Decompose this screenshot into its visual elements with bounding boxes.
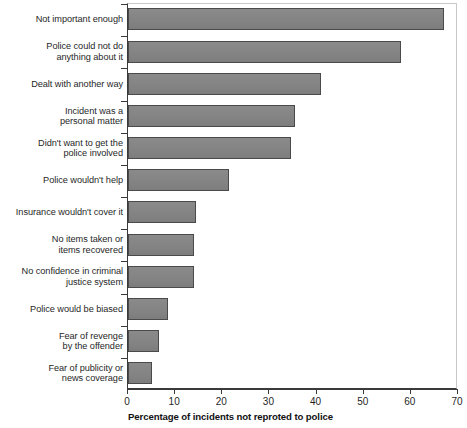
y-axis-tick — [121, 36, 127, 37]
bar — [128, 362, 152, 384]
y-axis-tick — [121, 358, 127, 359]
bar-category-label-line: justice system — [66, 277, 123, 288]
bar-category-label-line: Dealt with another way — [31, 79, 123, 90]
y-axis-tick — [121, 133, 127, 134]
bar-category-label: Fear of revengeby the offender — [0, 326, 123, 357]
bar-category-label-line: Incident was a — [65, 106, 123, 117]
bar — [128, 234, 194, 256]
x-axis-tick-label: 40 — [296, 396, 336, 407]
bar — [128, 73, 321, 95]
bar-track — [128, 137, 291, 159]
bar-category-label-line: Police wouldn't help — [43, 175, 123, 186]
bar — [128, 8, 444, 30]
y-axis-tick — [121, 4, 127, 5]
bar-category-label-line: personal matter — [60, 116, 123, 127]
x-axis-tick — [127, 389, 128, 394]
bar-category-label-line: Fear of revenge — [59, 331, 123, 342]
bar-category-label-line: by the offender — [63, 341, 123, 352]
bar-track — [128, 266, 194, 288]
bar-category-label: Police would be biased — [0, 294, 123, 325]
bar-category-label: No items taken oritems recovered — [0, 229, 123, 260]
bar-row: Police would be biased — [0, 294, 461, 325]
bar-category-label: Not important enough — [0, 4, 123, 35]
bar-category-label: Police could not doanything about it — [0, 36, 123, 67]
bar-category-label-line: items recovered — [58, 245, 123, 256]
x-axis-title: Percentage of incidents not reproted to … — [0, 411, 461, 422]
y-axis-tick — [121, 101, 127, 102]
bar-track — [128, 8, 444, 30]
bar-track — [128, 41, 401, 63]
bar-row: Incident was apersonal matter — [0, 101, 461, 132]
bar-track — [128, 73, 321, 95]
x-axis-tick — [316, 389, 317, 394]
bar-category-label: Incident was apersonal matter — [0, 101, 123, 132]
bar-track — [128, 362, 152, 384]
bar-category-label: Fear of publicity ornews coverage — [0, 358, 123, 389]
bar-category-label-line: Insurance wouldn't cover it — [16, 207, 123, 218]
bar-category-label-line: Didn't want to get the — [38, 138, 123, 149]
bar — [128, 137, 291, 159]
x-axis-tick — [363, 389, 364, 394]
x-axis-tick-label: 50 — [343, 396, 383, 407]
bar-category-label-line: No confidence in criminal — [22, 266, 123, 277]
x-axis-line — [127, 389, 458, 390]
bar-category-label-line: news coverage — [62, 373, 123, 384]
bar-row: Dealt with another way — [0, 68, 461, 99]
bar-row: Police could not doanything about it — [0, 36, 461, 67]
x-axis-tick — [174, 389, 175, 394]
x-axis-tick — [268, 389, 269, 394]
bar-category-label: Dealt with another way — [0, 68, 123, 99]
x-axis-tick-label: 70 — [437, 396, 467, 407]
x-axis-tick-label: 30 — [248, 396, 288, 407]
bar-track — [128, 169, 229, 191]
bar — [128, 266, 194, 288]
bar-category-label: No confidence in criminaljustice system — [0, 261, 123, 292]
bar — [128, 298, 168, 320]
bar — [128, 201, 196, 223]
bar-category-label-line: Fear of publicity or — [48, 363, 123, 374]
x-axis-tick-label: 60 — [390, 396, 430, 407]
bar — [128, 169, 229, 191]
y-axis-tick — [121, 261, 127, 262]
bar-category-label: Insurance wouldn't cover it — [0, 197, 123, 228]
bar-category-label-line: Police would be biased — [30, 304, 123, 315]
bar-category-label-line: police involved — [63, 148, 123, 159]
bar-row: Insurance wouldn't cover it — [0, 197, 461, 228]
bar-row: Didn't want to get thepolice involved — [0, 133, 461, 164]
bar — [128, 330, 159, 352]
bar-row: Fear of revengeby the offender — [0, 326, 461, 357]
y-axis-tick — [121, 165, 127, 166]
bar — [128, 105, 295, 127]
bar-track — [128, 298, 168, 320]
bar-category-label-line: Police could not do — [46, 41, 123, 52]
bar-track — [128, 105, 295, 127]
bar-row: Police wouldn't help — [0, 165, 461, 196]
bar-rows: Not important enoughPolice could not doa… — [0, 4, 461, 390]
x-axis-tick-label: 10 — [154, 396, 194, 407]
y-axis-tick — [121, 326, 127, 327]
bar-category-label-line: No items taken or — [52, 234, 123, 245]
y-axis-tick — [121, 197, 127, 198]
bar-track — [128, 234, 194, 256]
bar-track — [128, 201, 196, 223]
y-axis-tick — [121, 68, 127, 69]
bar-category-label: Police wouldn't help — [0, 165, 123, 196]
x-axis-tick — [457, 389, 458, 394]
x-axis-tick — [221, 389, 222, 394]
bar-row: Not important enough — [0, 4, 461, 35]
x-axis-tick-label: 20 — [201, 396, 241, 407]
y-axis-tick — [121, 229, 127, 230]
bar-row: No items taken oritems recovered — [0, 229, 461, 260]
x-axis-tick-label: 0 — [107, 396, 147, 407]
y-axis-tick — [121, 294, 127, 295]
bar — [128, 41, 401, 63]
bar-row: No confidence in criminaljustice system — [0, 261, 461, 292]
bar-category-label-line: anything about it — [56, 52, 123, 63]
x-axis-tick — [410, 389, 411, 394]
bar-track — [128, 330, 159, 352]
bar-category-label-line: Not important enough — [36, 14, 123, 25]
bar-row: Fear of publicity ornews coverage — [0, 358, 461, 389]
bar-category-label: Didn't want to get thepolice involved — [0, 133, 123, 164]
